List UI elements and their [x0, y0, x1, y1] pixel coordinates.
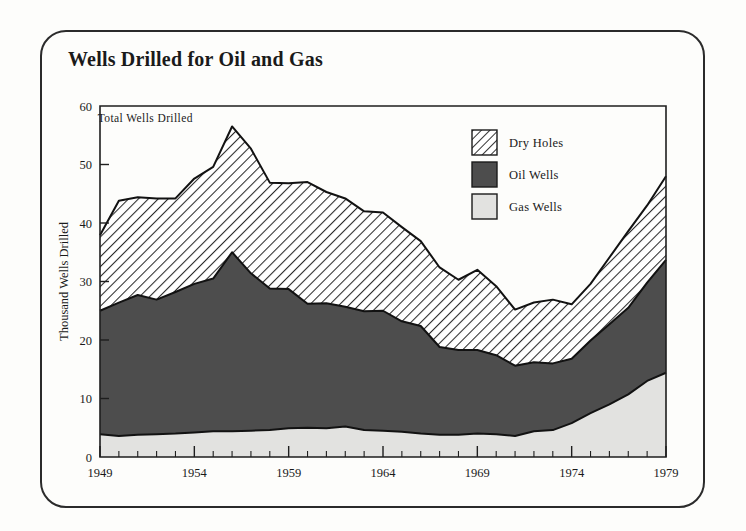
page-title: Wells Drilled for Oil and Gas — [68, 48, 323, 71]
figure-frame — [40, 30, 705, 508]
page-root: Wells Drilled for Oil and Gas 0102030405… — [0, 0, 746, 531]
